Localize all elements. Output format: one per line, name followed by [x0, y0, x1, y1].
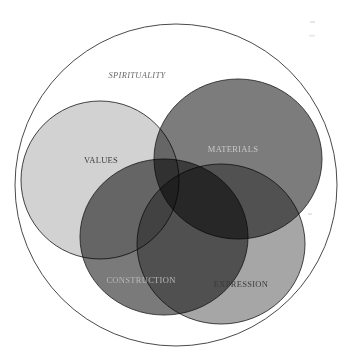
- venn-svg: SPIRITUALITY VALUES MATERIALS CONSTRUCTI…: [0, 0, 352, 361]
- materials-label: MATERIALS: [208, 144, 258, 154]
- values-label: VALUES: [84, 155, 118, 165]
- expression-circle: [137, 164, 305, 324]
- construction-label: CONSTRUCTION: [106, 275, 175, 285]
- spirituality-label: SPIRITUALITY: [109, 70, 167, 80]
- venn-diagram: SPIRITUALITY VALUES MATERIALS CONSTRUCTI…: [0, 0, 352, 361]
- expression-label: EXPRESSION: [214, 279, 268, 289]
